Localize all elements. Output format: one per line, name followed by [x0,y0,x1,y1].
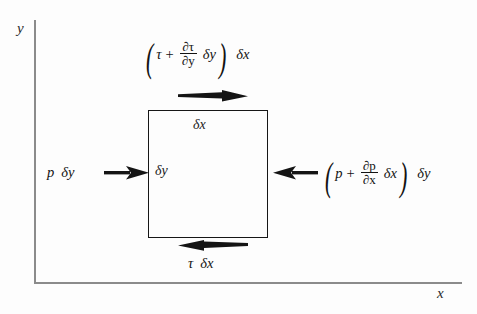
element-height-label: δy [155,163,168,179]
top-fraction-numerator: ∂τ [180,40,197,54]
left-pressure-arrow-icon [104,165,150,185]
right-partial-fraction: ∂p ∂x [361,159,378,187]
x-axis-line [34,282,462,284]
x-axis-label: x [437,285,444,302]
right-open-paren: ( [325,157,332,197]
top-delta-term: δy [203,46,216,62]
top-shear-arrow-icon [178,90,250,108]
left-force-label: pδy [47,165,74,180]
right-base-symbol: p [335,165,342,181]
right-pressure-arrow-icon [272,165,318,185]
element-width-label: δx [193,117,206,133]
right-suffix-term: δy [417,165,430,181]
right-close-paren: ) [400,157,407,197]
left-suffix-term: δy [61,164,74,180]
top-base-symbol: τ [156,46,161,62]
right-plus-symbol: + [347,165,355,181]
force-diagram: y x δx δy (τ+ ∂τ ∂y δy)δx [0,0,477,314]
bottom-base-symbol: τ [188,255,193,271]
right-fraction-numerator: ∂p [361,159,378,173]
left-base-symbol: p [47,164,54,180]
top-open-paren: ( [146,38,153,78]
top-partial-fraction: ∂τ ∂y [180,40,197,68]
right-delta-term: δx [384,165,397,181]
top-plus-symbol: + [166,46,174,62]
top-fraction-denominator: ∂y [180,53,197,68]
top-close-paren: ) [219,38,226,78]
right-fraction-denominator: ∂x [361,172,378,187]
bottom-suffix-term: δx [200,255,213,271]
right-force-label: (p+ ∂p ∂x δx)δy [322,157,430,197]
y-axis-line [34,20,36,284]
y-axis-label: y [17,20,24,37]
bottom-force-label: τδx [188,256,213,271]
top-suffix-term: δx [236,46,249,62]
top-force-label: (τ+ ∂τ ∂y δy)δx [143,38,249,78]
